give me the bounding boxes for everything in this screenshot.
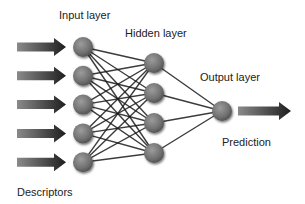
- hidden-node: [144, 143, 164, 163]
- descriptors-label: Descriptors: [17, 186, 73, 198]
- edge-input-hidden: [83, 47, 154, 63]
- edge-hidden-output: [154, 93, 222, 111]
- hidden-node: [144, 83, 164, 103]
- input-layer-label: Input layer: [59, 9, 111, 21]
- output-node: [212, 101, 232, 121]
- input-arrow-icon: [17, 67, 66, 85]
- input-arrow-icon: [17, 38, 66, 56]
- input-node: [73, 66, 93, 86]
- input-arrow-icon: [17, 124, 66, 142]
- output-layer-label: Output layer: [200, 71, 260, 83]
- hidden-node: [144, 113, 164, 133]
- neural-network-diagram: Input layer Hidden layer Output layer Pr…: [0, 0, 305, 204]
- input-node: [73, 123, 93, 143]
- input-node: [73, 95, 93, 115]
- output-arrow-icon: [238, 102, 291, 120]
- input-node: [73, 152, 93, 172]
- input-arrow-icon: [17, 96, 66, 114]
- input-node: [73, 37, 93, 57]
- prediction-label: Prediction: [222, 136, 271, 148]
- edge-input-hidden: [83, 153, 154, 162]
- hidden-node: [144, 53, 164, 73]
- hidden-layer-label: Hidden layer: [125, 27, 187, 39]
- nodes: [73, 37, 232, 172]
- input-arrow-icon: [17, 153, 66, 171]
